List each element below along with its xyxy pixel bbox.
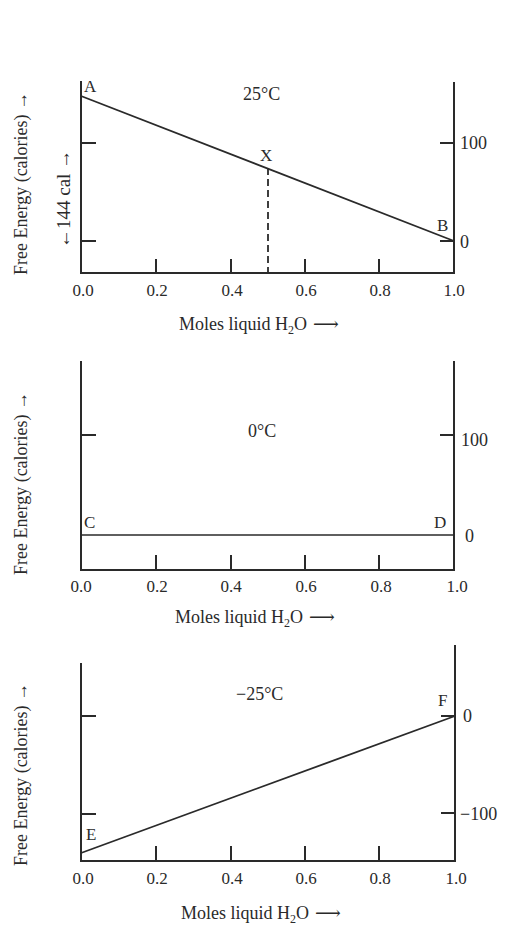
y-axis-title: Free Energy (calories) → — [11, 683, 32, 866]
right-tick-label: 0 — [463, 706, 472, 726]
x-tick-label: 0.6 — [295, 869, 316, 888]
x-tick-label: 0.6 — [295, 281, 316, 300]
x-tick-label: 0.4 — [221, 281, 243, 300]
x-tick-label: 0.2 — [146, 281, 167, 300]
right-tick-label: 0 — [460, 232, 469, 252]
x-tick-label: 0.8 — [369, 281, 390, 300]
point-label-d: D — [434, 513, 446, 532]
point-label-e: E — [86, 825, 96, 844]
panel-25c — [81, 81, 455, 274]
right-tick-label: 0 — [465, 526, 474, 546]
panel-minus25c — [81, 645, 456, 862]
x-tick-label: 1.0 — [446, 577, 467, 596]
x-tick-label: 0.8 — [369, 869, 390, 888]
x-tick-label: 0.0 — [72, 869, 93, 888]
x-axis-title: Moles liquid H2O⟶ — [175, 607, 335, 630]
figure-canvas: A X B 25°C 100 0 0.0 0.2 0.4 0.6 0.8 1.0… — [0, 0, 519, 927]
right-tick-label: 100 — [460, 133, 487, 153]
x-tick-label: 0.4 — [220, 577, 242, 596]
y-axis-title: Free Energy (calories) → — [11, 92, 32, 275]
bracket-144-cal: ←144 cal → — [53, 150, 74, 248]
x-tick-label: 0.0 — [70, 577, 91, 596]
panel-title: 0°C — [248, 421, 276, 441]
y-axis-title: Free Energy (calories) → — [11, 392, 32, 575]
right-tick-label: 100 — [461, 430, 488, 450]
x-tick-label: 0.0 — [72, 281, 93, 300]
panel-title: 25°C — [243, 84, 280, 104]
x-tick-label: 0.2 — [146, 869, 167, 888]
right-tick-label: −100 — [460, 804, 497, 824]
line-e-f — [81, 716, 455, 853]
point-label-a: A — [84, 77, 97, 96]
point-label-x: X — [260, 146, 272, 165]
x-tick-label: 1.0 — [443, 281, 464, 300]
x-tick-label: 1.0 — [445, 869, 466, 888]
point-label-c: C — [84, 513, 95, 532]
x-axis-title: Moles liquid H2O⟶ — [179, 314, 339, 337]
x-tick-label: 0.8 — [370, 577, 391, 596]
point-label-f: F — [438, 691, 447, 710]
x-tick-label: 0.2 — [146, 577, 167, 596]
panel-0c — [81, 361, 455, 571]
panel-title: −25°C — [236, 684, 283, 704]
point-label-b: B — [437, 216, 448, 235]
x-tick-label: 0.6 — [295, 577, 316, 596]
x-tick-label: 0.4 — [221, 869, 243, 888]
x-axis-title: Moles liquid H2O⟶ — [181, 903, 341, 926]
